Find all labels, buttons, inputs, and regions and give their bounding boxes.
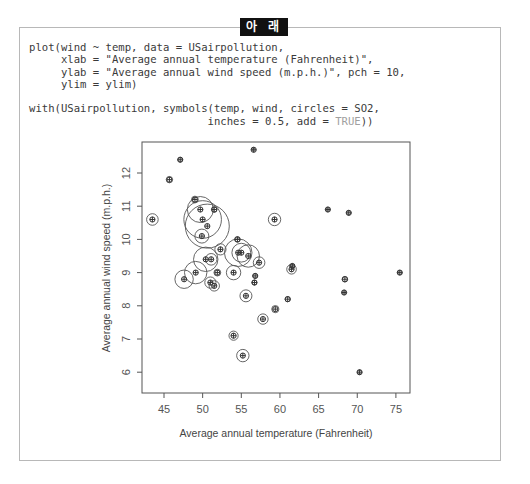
x-tick-label: 75	[390, 403, 402, 415]
y-tick-label: 8	[120, 303, 132, 309]
x-tick-label: 65	[312, 403, 324, 415]
y-tick-label: 11	[120, 200, 132, 211]
x-axis-title: Average annual temperature (Fahrenheit)	[179, 427, 372, 439]
x-tick-label: 60	[274, 403, 286, 415]
point-layer	[150, 147, 403, 375]
x-tick-label: 55	[235, 403, 247, 415]
bubble-scatter-chart: 45505560657075 6789101112 Average annual…	[0, 0, 530, 484]
y-tick-label: 10	[120, 233, 132, 245]
bubble-layer	[147, 148, 402, 374]
plot-area	[142, 142, 410, 393]
y-tick-label: 9	[120, 270, 132, 276]
x-tick-label: 70	[351, 403, 363, 415]
x-tick-label: 45	[158, 403, 170, 415]
y-axis: 6789101112	[120, 167, 142, 375]
y-tick-label: 7	[120, 336, 132, 342]
plot-box	[142, 142, 410, 393]
y-axis-title: Average annual wind speed (m.p.h.)	[100, 184, 112, 353]
y-tick-label: 12	[120, 167, 132, 179]
y-tick-label: 6	[120, 369, 132, 375]
x-tick-label: 50	[197, 403, 209, 415]
x-axis: 45505560657075	[158, 393, 402, 415]
